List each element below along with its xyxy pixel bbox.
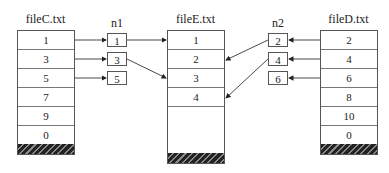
- arrow-n1-to-fileE: [127, 59, 166, 78]
- arrow-n2-to-fileE: [226, 40, 268, 60]
- arrow-n2-to-fileE: [226, 59, 268, 98]
- arrow-connectors: [0, 0, 389, 173]
